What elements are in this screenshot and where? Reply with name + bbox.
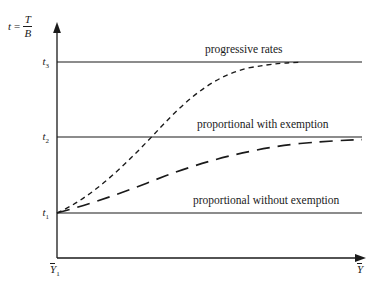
y-axis-title-equals: = bbox=[14, 21, 20, 32]
annotation-proportional-without-exemption: proportional without exemption bbox=[193, 194, 339, 206]
curve-progressive-rates bbox=[57, 62, 300, 213]
x-tick-subscript-ybar1: 1 bbox=[56, 270, 60, 278]
y-tick-subscript-t2: 2 bbox=[46, 137, 50, 145]
x-tick-label-ybar: Y bbox=[357, 263, 363, 275]
y-axis-arrowhead bbox=[53, 22, 61, 33]
x-tick-symbol-ybar: Y bbox=[357, 263, 363, 275]
x-axis-arrowhead bbox=[355, 254, 366, 262]
y-axis-title-fraction: T B bbox=[23, 14, 32, 39]
annotation-progressive-rates: progressive rates bbox=[205, 43, 283, 55]
annotation-proportional-with-exemption: proportional with exemption bbox=[197, 118, 329, 130]
x-tick-label-ybar1: Y1 bbox=[50, 263, 60, 278]
y-axis-title-variable: t bbox=[8, 21, 11, 32]
y-tick-label-t2: t2 bbox=[27, 131, 49, 145]
y-axis-title-denominator: B bbox=[23, 28, 32, 39]
x-tick-symbol-ybar1: Y bbox=[50, 263, 56, 275]
y-axis-title: t = T B bbox=[8, 14, 32, 39]
y-tick-label-t3: t3 bbox=[27, 56, 49, 70]
y-tick-label-t1: t1 bbox=[27, 207, 49, 221]
y-tick-subscript-t3: 3 bbox=[46, 62, 50, 70]
y-axis-title-numerator: T bbox=[24, 14, 32, 25]
plot-canvas bbox=[0, 0, 375, 298]
tax-rate-figure: t = T B t3 t2 t1 Y1 Y progressive rates … bbox=[0, 0, 375, 298]
y-tick-subscript-t1: 1 bbox=[46, 213, 50, 221]
